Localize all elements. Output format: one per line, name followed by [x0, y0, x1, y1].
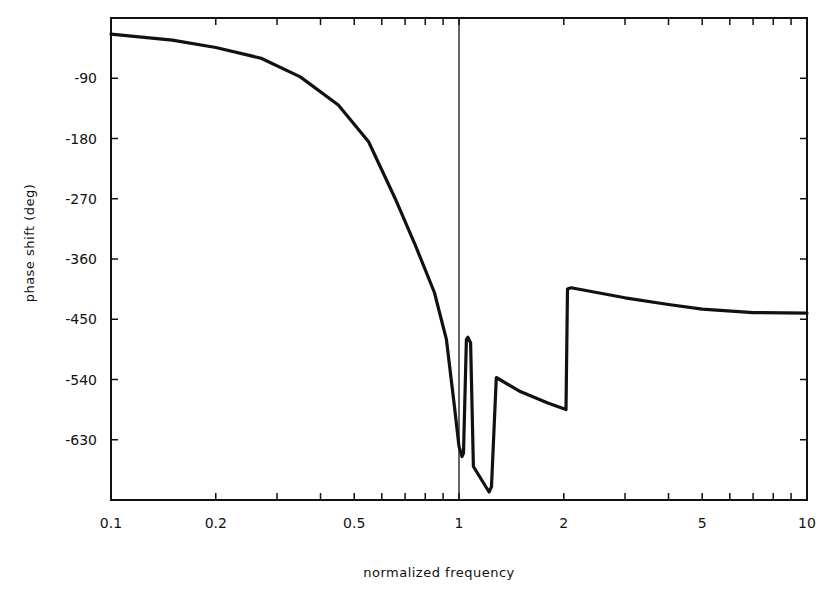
- x-tick-label: 2: [559, 515, 568, 531]
- x-tick-label: 0.5: [343, 515, 365, 531]
- x-tick-label: 0.2: [205, 515, 227, 531]
- y-tick-label: -90: [74, 70, 97, 86]
- y-tick-label: -180: [65, 131, 97, 147]
- y-axis-label: phase shift (deg): [22, 184, 37, 303]
- phase-chart: 0.10.20.512510-90-180-270-360-450-540-63…: [0, 0, 826, 595]
- x-tick-label: 1: [455, 515, 464, 531]
- x-axis-label: normalized frequency: [363, 565, 515, 580]
- plot-area: 0.10.20.512510-90-180-270-360-450-540-63…: [22, 18, 816, 580]
- y-tick-label: -540: [65, 372, 97, 388]
- y-tick-label: -450: [65, 311, 97, 327]
- x-tick-label: 5: [698, 515, 707, 531]
- x-tick-label: 0.1: [100, 515, 122, 531]
- x-tick-label: 10: [798, 515, 816, 531]
- y-tick-label: -630: [65, 432, 97, 448]
- y-tick-label: -360: [65, 251, 97, 267]
- y-tick-label: -270: [65, 191, 97, 207]
